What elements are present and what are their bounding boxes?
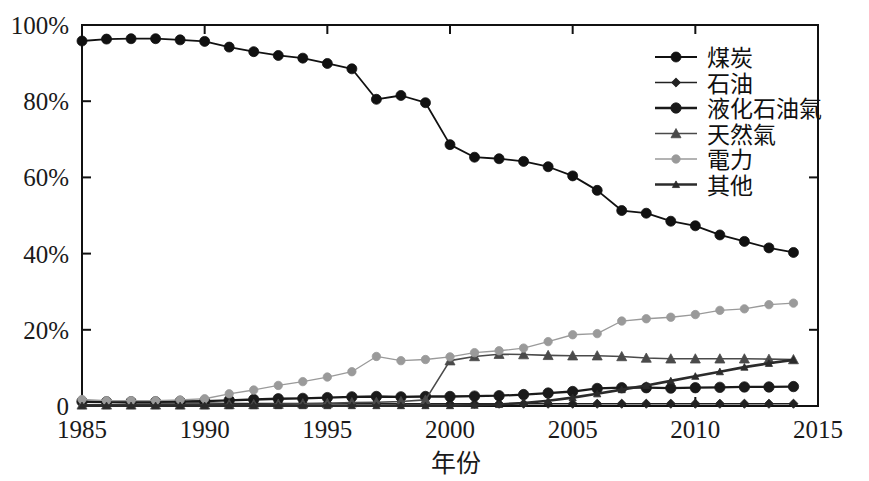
series-point: [469, 391, 479, 401]
y-tick-label: 60%: [23, 164, 69, 191]
series-point: [568, 171, 578, 181]
series-line: [82, 39, 793, 253]
series-point: [126, 34, 136, 44]
series-point: [642, 315, 650, 323]
y-tick-label: 20%: [23, 317, 69, 344]
series-point: [421, 355, 429, 363]
series-point: [765, 300, 773, 308]
line-chart: 020%40%60%80%100%19851990199520002005201…: [0, 0, 869, 481]
legend-label: 煤炭: [707, 46, 753, 71]
series-point: [322, 58, 332, 68]
series-1: [77, 34, 798, 258]
legend-marker: [672, 155, 680, 163]
legend-label: 電力: [707, 148, 753, 173]
series-point: [593, 329, 601, 337]
series-point: [788, 247, 798, 257]
series-point: [249, 47, 259, 57]
x-axis-title: 年份: [431, 450, 481, 477]
series-point: [715, 382, 725, 392]
series-point: [298, 53, 308, 63]
series-point: [299, 377, 307, 385]
x-tick-label: 2015: [793, 416, 843, 443]
series-point: [445, 391, 455, 401]
series-point: [371, 94, 381, 104]
legend-label: 天然氣: [707, 123, 776, 148]
series-point: [690, 221, 700, 231]
series-5: [78, 299, 798, 405]
series-point: [494, 391, 504, 401]
series-point: [789, 299, 797, 307]
series-point: [764, 243, 774, 253]
series-point: [739, 236, 749, 246]
series-point: [617, 206, 627, 216]
x-tick-label: 1990: [180, 416, 230, 443]
legend-item-5[interactable]: 電力: [655, 148, 753, 173]
chart-canvas: 020%40%60%80%100%19851990199520002005201…: [0, 0, 869, 481]
series-point: [347, 64, 357, 74]
series-point: [666, 216, 676, 226]
series-point: [519, 156, 529, 166]
legend-item-3[interactable]: 液化石油氣: [655, 97, 822, 122]
legend-marker: [671, 78, 680, 87]
series-point: [225, 390, 233, 398]
series-point: [519, 344, 527, 352]
series-point: [494, 154, 504, 164]
legend-label: 石油: [707, 72, 753, 97]
series-point: [273, 50, 283, 60]
legend-item-1[interactable]: 煤炭: [655, 46, 753, 71]
series-point: [740, 305, 748, 313]
legend-item-4[interactable]: 天然氣: [655, 123, 776, 148]
series-point: [543, 162, 553, 172]
series-point: [175, 35, 185, 45]
series-point: [323, 373, 331, 381]
x-tick-label: 1995: [302, 416, 352, 443]
series-point: [764, 382, 774, 392]
series-point: [372, 352, 380, 360]
series-point: [518, 389, 528, 399]
series-point: [667, 313, 675, 321]
series-point: [151, 34, 161, 44]
legend-item-2[interactable]: 石油: [655, 72, 753, 97]
x-tick-label: 2010: [670, 416, 720, 443]
legend-item-6[interactable]: 其他: [655, 174, 753, 199]
legend-marker: [671, 103, 681, 113]
series-point: [420, 98, 430, 108]
y-tick-label: 100%: [11, 12, 69, 39]
series-point: [739, 382, 749, 392]
series-point: [77, 36, 87, 46]
series-point: [716, 306, 724, 314]
series-point: [200, 36, 210, 46]
series-point: [592, 185, 602, 195]
series-point: [397, 356, 405, 364]
series-line: [82, 360, 793, 406]
series-point: [788, 381, 798, 391]
y-tick-label: 40%: [23, 241, 69, 268]
legend-label: 其他: [707, 174, 753, 199]
series-point: [666, 383, 676, 393]
x-tick-label: 1985: [57, 416, 107, 443]
series-point: [544, 337, 552, 345]
y-tick-label: 80%: [23, 88, 69, 115]
series-point: [618, 317, 626, 325]
series-point: [470, 152, 480, 162]
series-point: [274, 381, 282, 389]
series-point: [102, 34, 112, 44]
legend-marker: [671, 52, 681, 62]
series-point: [568, 331, 576, 339]
series-point: [396, 90, 406, 100]
series-point: [641, 208, 651, 218]
series-point: [470, 348, 478, 356]
series-point: [224, 42, 234, 52]
series-line: [82, 303, 793, 401]
series-point: [715, 230, 725, 240]
series-point: [348, 368, 356, 376]
series-point: [691, 310, 699, 318]
x-tick-label: 2005: [548, 416, 598, 443]
x-tick-label: 2000: [425, 416, 475, 443]
series-point: [445, 140, 455, 150]
series-point: [250, 386, 258, 394]
series-point: [690, 383, 700, 393]
legend-label: 液化石油氣: [707, 97, 822, 122]
legend: 煤炭石油液化石油氣天然氣電力其他: [655, 46, 822, 199]
series-point: [495, 347, 503, 355]
